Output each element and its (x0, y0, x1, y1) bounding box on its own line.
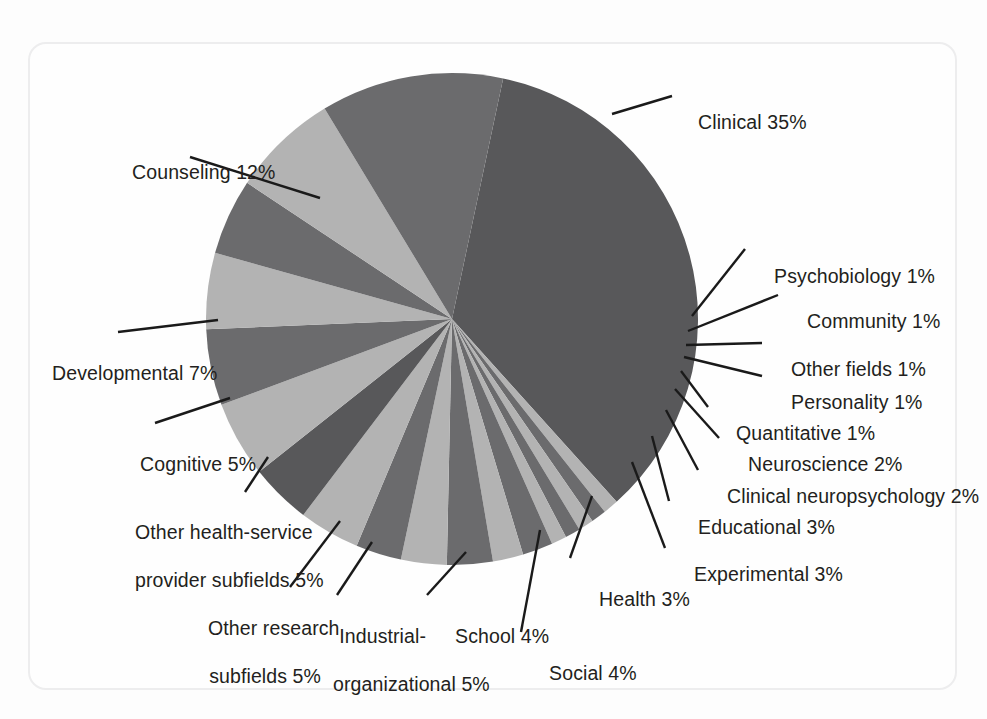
pie-label-other-health-service-provider-subfields: Other health-service provider subfields … (113, 496, 303, 616)
pie-label-cognitive: Cognitive 5% (118, 428, 233, 500)
pie-label-school-text: School 4% (455, 625, 549, 647)
pie-chart: Clinical 35% Psychobiology 1% Community … (0, 0, 987, 719)
pie-slice-group (206, 73, 698, 565)
pie-label-counseling-text: Counseling 12% (132, 161, 275, 183)
pie-label-other-research-subfields-line1: Other research (208, 617, 339, 639)
pie-label-other-research-subfields-line2: subfields 5% (209, 665, 321, 687)
pie-label-industrial-organizational-line1: Industrial- (339, 625, 426, 647)
pie-label-social-text: Social 4% (549, 662, 637, 684)
pie-label-developmental: Developmental 7% (30, 337, 200, 409)
leader-line (632, 462, 665, 548)
pie-label-community-text: Community 1% (807, 310, 940, 332)
leader-line (118, 320, 218, 332)
leader-line (666, 410, 698, 470)
leader-line (675, 389, 719, 438)
pie-label-health: Health 3% (577, 563, 690, 635)
pie-label-health-text: Health 3% (599, 588, 690, 610)
pie-label-other-hsp-line1: Other health-service (135, 521, 313, 543)
pie-label-educational-text: Educational 3% (698, 516, 835, 538)
pie-label-cognitive-text: Cognitive 5% (140, 453, 256, 475)
pie-label-developmental-text: Developmental 7% (52, 362, 217, 384)
leader-line (612, 96, 672, 114)
leader-line (684, 357, 762, 376)
pie-label-school: School 4% (433, 600, 549, 672)
pie-label-experimental-text: Experimental 3% (694, 563, 843, 585)
leader-line (337, 542, 372, 595)
pie-label-industrial-organizational-line2: organizational 5% (333, 673, 490, 695)
pie-label-psychobiology-text: Psychobiology 1% (774, 265, 935, 287)
leader-line (686, 343, 762, 345)
pie-label-experimental: Experimental 3% (672, 538, 843, 610)
pie-label-other-hsp-line2: provider subfields 5% (135, 569, 324, 591)
pie-label-clinical: Clinical 35% (676, 86, 807, 158)
pie-label-clinical-text: Clinical 35% (698, 111, 807, 133)
pie-label-counseling: Counseling 12% (110, 136, 250, 208)
leader-line (692, 249, 745, 316)
